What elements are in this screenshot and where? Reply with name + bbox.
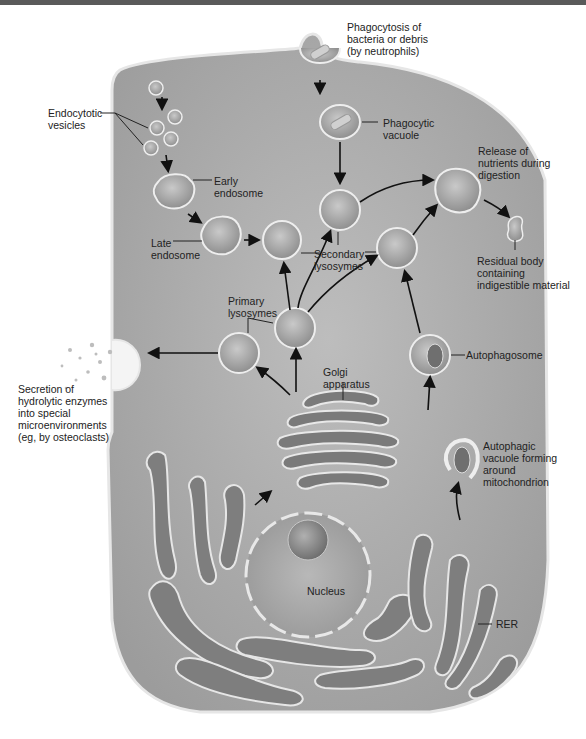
label-phagocytosis: Phagocytosis of bacteria or debris (by n…: [347, 21, 428, 57]
label-endocytotic-vesicles: Endocytotic vesicles: [48, 107, 102, 131]
label-phagocytic-vacuole: Phagocytic vacuole: [383, 117, 434, 141]
early-endosome: [154, 174, 195, 208]
primary-lysosome: [219, 333, 259, 373]
label-residual-body: Residual body containing indigestible ma…: [477, 255, 570, 291]
label-late-endosome: Late endosome: [151, 237, 200, 261]
residual-body: [508, 217, 523, 242]
digesting-lysosome: [435, 169, 480, 213]
label-secondary-lysosomes: Secondary lysosymes: [314, 248, 364, 272]
label-early-endosome: Early endosome: [214, 175, 263, 199]
nucleus: [246, 513, 370, 637]
secondary-lysosome: [320, 190, 360, 230]
label-rer: RER: [496, 618, 518, 630]
autophagosome: [410, 335, 450, 375]
label-autophagosome: Autophagosome: [466, 349, 542, 361]
late-endosome: [201, 217, 241, 255]
secondary-lysosome: [377, 228, 417, 268]
label-secretion: Secretion of hydrolytic enzymes into spe…: [18, 383, 109, 443]
label-primary-lysosomes: Primary lysosymes: [228, 295, 277, 319]
label-release-nutrients: Release of nutrients during digestion: [478, 145, 550, 181]
phagocytic-vacuole: [320, 105, 360, 139]
label-nucleus: Nucleus: [307, 585, 345, 597]
label-autophagic-vacuole: Autophagic vacuole forming around mitoch…: [483, 440, 557, 488]
label-golgi-apparatus: Golgi apparatus: [323, 366, 370, 390]
secondary-lysosome: [263, 221, 301, 259]
primary-lysosome: [275, 308, 315, 348]
